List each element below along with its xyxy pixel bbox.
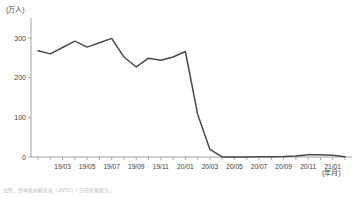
x-tick-label: 19/09 — [128, 163, 145, 170]
x-tick-label: 19/05 — [79, 163, 96, 170]
y-axis-unit-label: (万人) — [6, 4, 25, 14]
x-tick-label: 20/09 — [275, 163, 292, 170]
chart-container: (万人) (年月) 出所：日本政府観光局（JNTO）「訪日外客統計」 01002… — [0, 0, 358, 199]
data-series-line — [38, 38, 345, 157]
x-axis: 19/0319/0519/0719/0919/1120/0120/0320/05… — [31, 157, 352, 170]
y-tick-label: 100 — [14, 114, 26, 121]
y-tick-label: 200 — [14, 74, 26, 81]
source-note: 出所：日本政府観光局（JNTO）「訪日外客統計」 — [3, 186, 114, 193]
x-tick-label: 19/07 — [103, 163, 120, 170]
x-tick-label: 20/01 — [177, 163, 194, 170]
y-tick-label: 300 — [14, 35, 26, 42]
x-axis-unit-label: (年月) — [322, 167, 341, 177]
x-tick-label: 19/11 — [153, 163, 169, 170]
x-tick-label: 20/07 — [251, 163, 268, 170]
x-tick-label: 20/11 — [300, 163, 316, 170]
y-tick-group: 0100200300 — [14, 35, 31, 161]
x-tick-label: 20/03 — [202, 163, 219, 170]
x-tick-group: 19/0319/0519/0719/0919/1120/0120/0320/05… — [38, 157, 345, 170]
x-tick-label: 20/05 — [226, 163, 243, 170]
y-axis: 0100200300 — [14, 18, 31, 161]
line-chart-svg: 0100200300 19/0319/0519/0719/0919/1120/0… — [0, 0, 358, 199]
y-tick-label: 0 — [22, 154, 26, 161]
x-tick-label: 19/03 — [54, 163, 71, 170]
